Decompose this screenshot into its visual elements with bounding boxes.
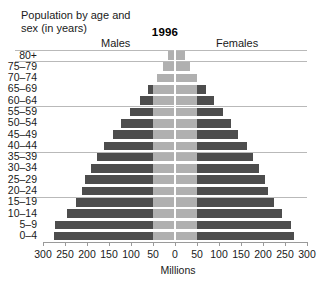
male-bar [113,130,153,139]
x-axis-tick-label: 50 [147,248,159,260]
x-axis-tick [197,242,198,246]
male-bar-inner [153,209,175,218]
males-legend-label: Males [101,37,130,49]
x-axis-tick-label: 100 [210,248,228,260]
male-bar-inner [153,164,175,173]
female-bar-inner [175,51,185,60]
x-axis-tick [175,242,176,246]
male-bar [104,142,153,151]
x-axis-tick-label: 0 [172,248,178,260]
x-axis-tick-label: 300 [34,248,52,260]
x-axis-tick [285,242,286,246]
x-axis-tick [87,242,88,246]
x-axis-tick-label: 250 [56,248,74,260]
female-bar-inner [175,232,197,241]
female-bar-inner [175,175,197,184]
male-bar [85,175,153,184]
x-axis-tick-label: 150 [232,248,250,260]
x-axis-tick [43,242,44,246]
population-pyramid-chart: Population by age and sex (in years) 199… [0,0,330,289]
x-axis-tick-label: 200 [254,248,272,260]
male-bar-inner [153,153,175,162]
female-bar [197,198,274,207]
x-axis-tick [307,242,308,246]
female-bar [197,164,259,173]
x-axis-title: Millions [0,264,330,276]
male-bar [67,209,153,218]
female-bar [197,85,206,94]
year-annotation-text: 1996 [152,26,178,38]
x-axis-tick [131,242,132,246]
female-bar [197,187,268,196]
male-bar [140,96,153,105]
male-bar-inner [153,96,175,105]
female-bar [197,142,247,151]
x-axis-tick [241,242,242,246]
plot-area [43,50,307,242]
x-axis-tick-label: 200 [78,248,96,260]
male-bar [130,108,153,117]
female-bar-inner [175,85,197,94]
female-bar-inner [175,164,197,173]
male-bar-inner [153,108,175,117]
x-axis-tick [65,242,66,246]
x-axis-tick [109,242,110,246]
female-bar [197,209,282,218]
female-bar-inner [175,198,197,207]
female-bar [197,232,294,241]
x-axis-tick-label: 150 [100,248,118,260]
age-group-label: 15–19 [0,196,37,207]
female-bar-inner [175,108,197,117]
x-axis-tick-label: 300 [298,248,316,260]
male-bar [82,187,153,196]
age-group-label: 50–54 [0,117,37,128]
x-axis-tick [263,242,264,246]
female-bar-inner [175,153,197,162]
female-bar-inner [175,187,197,196]
female-bar-inner [175,209,197,218]
x-axis-tick [219,242,220,246]
male-bar-inner [153,221,175,230]
females-legend-label: Females [216,37,258,49]
male-bar-inner [153,85,175,94]
female-bar-inner [175,130,197,139]
female-bar-inner [175,221,197,230]
male-bar [148,85,153,94]
male-bar-inner [153,198,175,207]
male-bar-inner [153,175,175,184]
male-bar [121,119,153,128]
x-axis-tick-label: 100 [122,248,140,260]
female-bar [197,96,214,105]
x-axis-tick-label: 50 [191,248,203,260]
female-bar [197,108,223,117]
male-bar [76,198,153,207]
male-bar [54,232,153,241]
male-bar [91,164,153,173]
age-group-label: 65–69 [0,83,37,94]
female-bar-inner [175,142,197,151]
female-bar-inner [175,96,197,105]
female-bar-inner [175,62,190,71]
female-bar [197,175,265,184]
x-axis-tick-label: 250 [276,248,294,260]
female-bar [197,153,253,162]
male-bar [97,153,153,162]
male-bar-inner [153,142,175,151]
female-bar [197,221,291,230]
male-bar-inner [153,119,175,128]
age-group-label: 0–4 [0,230,37,241]
male-bar-inner [153,232,175,241]
male-bar-inner [153,187,175,196]
center-axis-gap [174,50,176,242]
year-annotation: 1996 [0,26,330,38]
x-axis-tick [153,242,154,246]
male-bar-inner [157,74,175,83]
female-bar-inner [175,119,197,128]
female-bar [197,130,238,139]
female-bar [197,119,231,128]
male-bar [55,221,153,230]
female-bar-inner [175,74,197,83]
x-axis-title-text: Millions [160,264,195,276]
male-bar-inner [153,130,175,139]
